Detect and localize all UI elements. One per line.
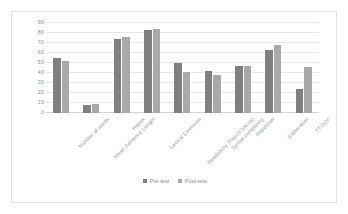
bar-post-test xyxy=(244,66,252,113)
x-axis: Number of wordsMean Sentence LenghtHapax… xyxy=(46,113,319,175)
bar-group xyxy=(198,23,228,113)
bar-post-test xyxy=(153,29,161,113)
bar-post-test xyxy=(274,45,282,113)
bar-pre-test xyxy=(265,50,273,113)
bar-group xyxy=(228,23,258,113)
x-tick-label: Number of words xyxy=(77,116,110,149)
bar-post-test xyxy=(122,37,130,113)
chart-legend: Pre-testPost-test xyxy=(12,178,338,184)
bar-pre-test xyxy=(114,39,122,113)
bar-pre-test xyxy=(83,105,91,113)
x-tick-label: Readability (Flesch Vacca) xyxy=(205,116,254,165)
bar-group xyxy=(289,23,319,113)
y-tick-label: 60 xyxy=(38,50,44,55)
y-tick-label: 0 xyxy=(41,110,44,115)
y-tick-label: 80 xyxy=(38,30,44,35)
bar-post-test xyxy=(213,75,221,113)
bar-post-test xyxy=(183,72,191,113)
plot-area xyxy=(46,23,319,113)
x-tick-label: Lexical Extension xyxy=(168,116,202,150)
legend-item-pre-test[interactable]: Pre-test xyxy=(143,178,169,184)
bar-pre-test xyxy=(174,63,182,113)
bar-group xyxy=(107,23,137,113)
y-tick-label: 30 xyxy=(38,80,44,85)
y-tick-label: 40 xyxy=(38,70,44,75)
legend-item-post-test[interactable]: Post-test xyxy=(178,178,207,184)
bar-group xyxy=(167,23,197,113)
legend-label: Post-test xyxy=(185,178,207,184)
bar-group xyxy=(46,23,76,113)
bar-group xyxy=(258,23,288,113)
y-tick-label: 10 xyxy=(38,100,44,105)
bar-pre-test xyxy=(205,71,213,113)
legend-swatch-icon xyxy=(178,179,182,183)
y-axis: 0102030405060708090 xyxy=(23,23,44,113)
bar-post-test xyxy=(92,104,100,113)
bar-pre-test xyxy=(235,66,243,113)
legend-swatch-icon xyxy=(143,179,147,183)
bar-post-test xyxy=(304,67,312,113)
bar-group xyxy=(137,23,167,113)
bar-pre-test xyxy=(144,30,152,113)
bar-post-test xyxy=(62,61,70,113)
y-tick-label: 50 xyxy=(38,60,44,65)
y-tick-label: 70 xyxy=(38,40,44,45)
x-tick-label: Elaboration xyxy=(286,116,310,140)
bar-pre-test xyxy=(296,89,304,113)
y-tick-label: 90 xyxy=(38,20,44,25)
y-tick-label: 20 xyxy=(38,90,44,95)
legend-label: Pre-test xyxy=(150,178,170,184)
x-tick-label: TT-SDI* xyxy=(313,116,331,134)
chart-container: 0102030405060708090 Number of wordsMean … xyxy=(11,11,337,203)
bar-group xyxy=(76,23,106,113)
bar-pre-test xyxy=(53,58,61,113)
